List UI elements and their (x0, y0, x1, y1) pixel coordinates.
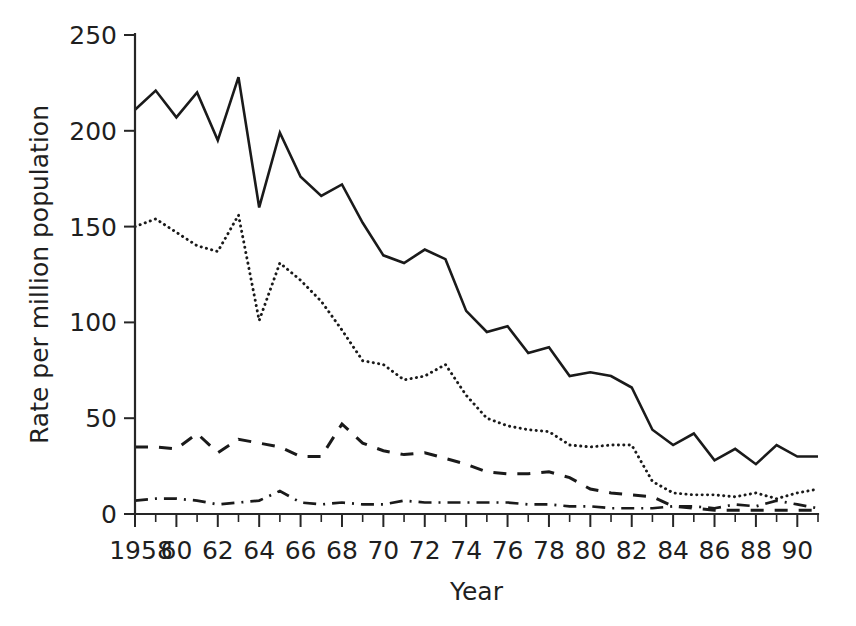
x-tick-label: 80 (574, 536, 606, 565)
data-series-group (135, 77, 818, 510)
x-tick-label: 64 (243, 536, 275, 565)
y-tick-label: 50 (85, 404, 117, 433)
chart-canvas: 050100150200250 195860626466687072747678… (0, 0, 856, 626)
line-chart: 050100150200250 195860626466687072747678… (0, 0, 856, 626)
x-tick-label: 76 (492, 536, 524, 565)
series-solid (135, 77, 818, 464)
x-tick-label: 68 (326, 536, 358, 565)
x-tick-label: 62 (202, 536, 234, 565)
y-tick-label: 250 (69, 21, 117, 50)
series-dash-dot (135, 491, 818, 508)
x-tick-label: 74 (450, 536, 482, 565)
x-tick-label: 86 (699, 536, 731, 565)
series-dotted (135, 215, 818, 499)
x-tick-label: 84 (657, 536, 689, 565)
y-axis-ticks: 050100150200250 (69, 21, 135, 529)
y-tick-label: 0 (101, 500, 117, 529)
x-tick-label: 66 (285, 536, 317, 565)
y-tick-label: 150 (69, 213, 117, 242)
y-tick-label: 200 (69, 117, 117, 146)
x-axis-title: Year (449, 577, 504, 606)
y-axis-title: Rate per million population (25, 105, 54, 444)
x-tick-label: 70 (367, 536, 399, 565)
x-tick-label: 88 (740, 536, 772, 565)
x-axis-ticks: 195860626466687072747678808284868890 (109, 514, 818, 565)
x-tick-label: 90 (781, 536, 813, 565)
x-tick-label: 72 (409, 536, 441, 565)
x-tick-label: 82 (616, 536, 648, 565)
x-tick-label: 60 (160, 536, 192, 565)
series-dashed (135, 424, 818, 510)
x-tick-label: 78 (533, 536, 565, 565)
y-tick-label: 100 (69, 308, 117, 337)
